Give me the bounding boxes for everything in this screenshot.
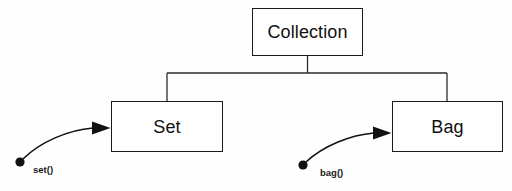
diagram-canvas: Collection Set Bag set() bag() xyxy=(0,0,512,191)
node-bag-label: Bag xyxy=(431,118,463,136)
callout-arrowhead-set xyxy=(92,122,111,135)
node-set[interactable]: Set xyxy=(111,101,223,152)
callout-leader-set xyxy=(23,128,93,159)
node-bag[interactable]: Bag xyxy=(392,101,503,152)
callout-label-bag: bag() xyxy=(320,168,343,178)
callout-arrowhead-bag xyxy=(373,127,392,140)
node-collection-label: Collection xyxy=(267,23,347,41)
node-set-label: Set xyxy=(153,118,180,136)
node-collection[interactable]: Collection xyxy=(252,8,363,56)
callout-leader-bag xyxy=(306,133,374,162)
callout-label-set: set() xyxy=(33,165,53,175)
